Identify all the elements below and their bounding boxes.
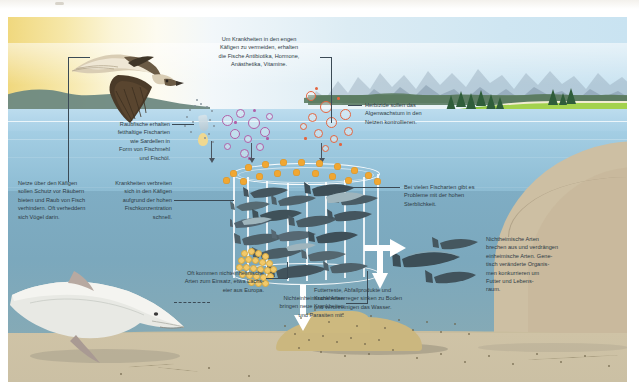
label-drugs: Um Krankheiten in den engen Käfigen zu v… [184, 35, 334, 69]
seabed-shadow [478, 343, 627, 352]
fishmeal-speck-icon [208, 133, 210, 135]
fishmeal-speck-icon [200, 103, 202, 105]
waste-speck [308, 339, 310, 341]
fishmeal-speck-icon [190, 131, 192, 133]
fish-icon [243, 187, 288, 198]
herbicide-dot-icon [339, 143, 342, 146]
cage-float-icon [293, 169, 300, 176]
fish-icon [271, 195, 316, 206]
leader-feed-h [172, 124, 194, 125]
leader-disease-h [174, 200, 234, 201]
fishmeal-speck-icon [211, 110, 213, 112]
fishmeal-speck-icon [192, 121, 194, 123]
waste-speck [320, 351, 322, 353]
cage-float-icon [351, 167, 358, 174]
waste-speck [584, 355, 586, 357]
conifer-tree-icon [476, 90, 486, 106]
label-line: Nichtheimische Arten [486, 235, 582, 243]
fishmeal-speck-icon [204, 137, 206, 139]
cage-float-icon [262, 161, 269, 168]
cage-float-icon [298, 159, 305, 166]
drug-down-arrow-icon [251, 143, 252, 159]
herbicide-particle-icon [340, 109, 351, 120]
herbicide-particle-icon [306, 91, 316, 101]
waste-speck [344, 355, 346, 357]
label-line: Käfigen zu vermeiden, erhalten [184, 43, 334, 51]
drug-particle-icon [222, 115, 233, 126]
label-line: und Parasiten mit. [204, 311, 344, 319]
waste-speck [364, 343, 366, 345]
leader-mortality-h [338, 187, 400, 188]
leader-nets-h [68, 57, 90, 58]
cage-float-icon [312, 170, 319, 177]
label-line: sich in den Käfigen [78, 187, 172, 195]
drug-particle-icon [260, 127, 270, 137]
label-line: Form von Fischmehl [68, 145, 170, 153]
drug-particle-icon [230, 129, 240, 139]
herbicide-down-arrow-icon [321, 143, 322, 159]
cage-float-icon [280, 159, 287, 166]
label-disease: Krankheiten verbreiten sich in den Käfig… [78, 179, 172, 221]
label-line: Arten zum Einsatz, etwa Lachs- [156, 277, 264, 285]
leader-eggs-h [266, 278, 288, 279]
label-line: aufgrund der hohen [78, 196, 172, 204]
fishmeal-speck-icon [209, 119, 211, 121]
conifer-tree-icon [566, 88, 576, 104]
drug-particle-icon [256, 143, 264, 151]
drug-particle-icon [266, 113, 273, 120]
conifer-tree-icon [486, 94, 496, 110]
label-line: Sterblichkeit. [404, 200, 514, 208]
herbicide-particle-icon [308, 113, 317, 122]
waste-speck [464, 361, 466, 363]
waste-speck [120, 373, 122, 375]
waste-speck [560, 361, 562, 363]
label-line: Raubfische erhalten [68, 120, 170, 128]
label-line: und Fischöl. [68, 154, 170, 162]
herbicide-particle-icon [344, 127, 353, 136]
waste-speck [328, 321, 330, 323]
leader-eggs-v [287, 262, 288, 279]
cage-float-icon [223, 177, 230, 184]
label-nonnative-eggs: Oft kommen nichteinheimische Arten zum E… [156, 269, 264, 294]
fish-icon [301, 249, 346, 261]
waste-speck [608, 365, 610, 367]
salmon-egg-icon [267, 273, 274, 280]
herbicide-particle-icon [330, 135, 338, 143]
label-line: Oft kommen nichteinheimische [156, 269, 264, 277]
scan-speck [55, 2, 64, 5]
fish-icon [425, 270, 476, 283]
waste-speck [298, 347, 300, 349]
drug-particle-icon [244, 135, 252, 143]
label-line: Netzen kontrollieren. [365, 118, 461, 126]
scan-top-strip [0, 0, 639, 9]
label-line: Krankheitserreger sinken zu Boden [314, 294, 464, 302]
label-escape: Nichtheimische Arten brechen aus und ver… [486, 235, 582, 294]
waste-speck [350, 337, 352, 339]
salmon-egg-icon [259, 259, 266, 266]
waste-speck [412, 329, 414, 331]
drug-dot-icon [266, 137, 269, 140]
fishmeal-speck-icon [184, 125, 186, 127]
cage-float-icon [245, 164, 252, 171]
waste-speck [294, 333, 296, 335]
fish-icon [234, 233, 284, 245]
label-line: Futterreste, Abfallprodukte und [314, 286, 464, 294]
waste-speck [368, 353, 370, 355]
fishmeal-speck-icon [196, 99, 198, 101]
salmon-egg-icon [245, 256, 252, 263]
fish-icon [432, 237, 478, 249]
fish-oil-drop-icon [198, 133, 208, 146]
label-line: wie Sardellen in [68, 137, 170, 145]
herbicide-particle-icon [300, 123, 307, 130]
salmon-egg-icon [248, 248, 255, 255]
cage-float-icon [316, 160, 323, 167]
fish-icon [323, 261, 368, 273]
drug-dot-icon [253, 109, 256, 112]
waste-speck [468, 333, 470, 335]
fishmeal-speck-icon [194, 105, 196, 107]
conifer-tree-icon [548, 89, 558, 105]
label-line: brechen aus und verdrängen [486, 243, 582, 251]
salmon-egg-icon [270, 266, 277, 273]
waste-speck [336, 341, 338, 343]
cage-float-icon [334, 163, 341, 170]
